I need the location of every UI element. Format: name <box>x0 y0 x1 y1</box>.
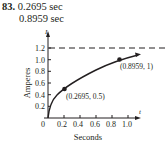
svg-text:0.6: 0.6 <box>90 120 100 129</box>
y-axis-label: Amperes <box>22 68 32 99</box>
svg-text:0.8: 0.8 <box>35 67 45 76</box>
y-ticks: 0.2 0.4 0.6 0.8 1.0 1.2 <box>35 44 51 111</box>
svg-text:0.2: 0.2 <box>35 102 45 111</box>
svg-text:0.4: 0.4 <box>73 120 83 129</box>
svg-text:1.0: 1.0 <box>35 56 45 65</box>
svg-text:0.8: 0.8 <box>106 120 116 129</box>
x-axis-arrow-icon <box>135 116 141 120</box>
svg-text:1.2: 1.2 <box>35 44 45 53</box>
x-axis-var: t <box>139 108 142 116</box>
svg-text:0.2: 0.2 <box>57 120 67 129</box>
svg-text:0.6: 0.6 <box>35 79 45 88</box>
svg-text:1.0: 1.0 <box>122 120 132 129</box>
x-axis-label: Seconds <box>74 132 102 142</box>
point-1-label: (0.2695, 0.5) <box>66 92 105 101</box>
curve-arrow-icon <box>135 53 141 58</box>
point-1 <box>62 87 67 92</box>
svg-text:0: 0 <box>41 120 45 129</box>
svg-text:0.4: 0.4 <box>35 91 45 100</box>
x-ticks: 0 0.2 0.4 0.6 0.8 1.0 <box>41 115 132 129</box>
point-2-label: (0.8959, 1) <box>120 62 154 71</box>
current-vs-time-chart: I t 0.2 0.4 0.6 0.8 1.0 1.2 0 0.2 0.4 0.… <box>0 0 167 158</box>
